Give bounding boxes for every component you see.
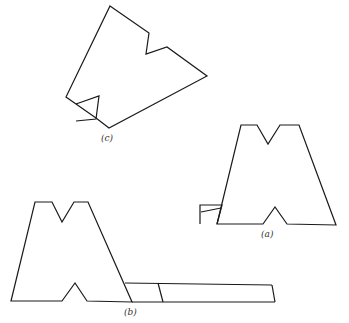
- figure-b-label: (b): [124, 307, 137, 317]
- figure-c-label: (c): [101, 133, 113, 143]
- diagram-svg: [0, 0, 349, 323]
- figure-b-strip-divider: [158, 283, 163, 302]
- figure-a: [200, 125, 336, 225]
- figure-a-outline: [217, 125, 336, 225]
- figure-c: [66, 6, 207, 128]
- figure-b: [11, 202, 275, 302]
- figure-c-outline: [66, 6, 207, 128]
- figure-b-outline: [11, 202, 132, 302]
- figure-b-strip-end: [272, 285, 275, 302]
- figure-b-strip-top: [125, 283, 272, 285]
- figure-a-label: (a): [261, 229, 273, 239]
- net-diagram-canvas: (c) (a) (b): [0, 0, 349, 323]
- figure-a-tab-crease: [201, 208, 221, 212]
